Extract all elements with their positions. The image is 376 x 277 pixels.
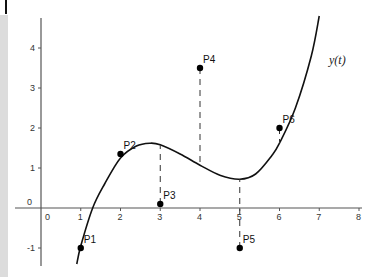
x-tick-label: 3 (157, 212, 162, 222)
point-label-p1: P1 (84, 234, 97, 245)
data-point-p1 (78, 245, 84, 251)
point-label-p2: P2 (124, 140, 137, 151)
x-tick-label: 8 (356, 212, 361, 222)
x-tick-label: 6 (277, 212, 282, 222)
curve-y-of-t (77, 16, 319, 264)
x-tick-label: 0 (45, 212, 50, 222)
point-label-p5: P5 (243, 234, 256, 245)
x-tick-label: 4 (197, 212, 202, 222)
x-tick-label: 1 (78, 212, 83, 222)
point-label-p6: P6 (283, 114, 296, 125)
y-tick-label: 4 (30, 43, 35, 53)
point-label-p3: P3 (163, 190, 176, 201)
data-point-p5 (237, 245, 243, 251)
point-label-p4: P4 (203, 54, 216, 65)
x-tick-label: 2 (118, 212, 123, 222)
data-point-p2 (117, 151, 123, 157)
y-tick-label: 1 (30, 163, 35, 173)
y-origin-label: 0 (27, 197, 32, 207)
chart-canvas: 012345678-112340P1P2P3P4P5P6y(t) (0, 0, 376, 277)
data-point-p3 (157, 201, 163, 207)
y-tick-label: -1 (27, 243, 35, 253)
y-tick-label: 3 (30, 83, 35, 93)
function-label: y(t) (328, 53, 346, 67)
x-tick-label: 7 (316, 212, 321, 222)
data-point-p6 (276, 125, 282, 131)
data-point-p4 (197, 65, 203, 71)
y-tick-label: 2 (30, 123, 35, 133)
